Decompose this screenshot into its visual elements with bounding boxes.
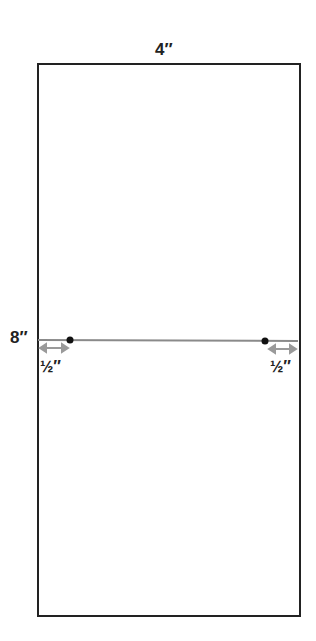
fold-line-overlay (0, 0, 316, 641)
right-double-arrow-icon (269, 345, 296, 353)
left-double-arrow-icon (40, 344, 68, 352)
right-dot-icon (262, 338, 269, 345)
fold-line (38, 340, 298, 341)
left-dot-icon (67, 337, 74, 344)
